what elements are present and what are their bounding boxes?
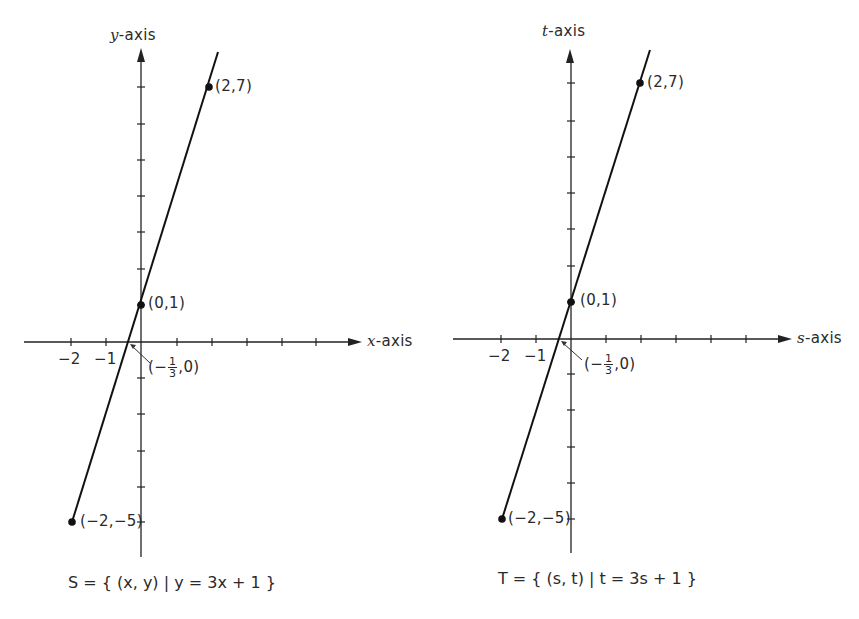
point-label-neg2-neg5: (−2,−5) (508, 509, 571, 527)
s-axis-arrow-icon (778, 335, 792, 343)
fraction-one-third: 13 (604, 353, 613, 376)
line-t-equals-3s-plus-1 (502, 50, 650, 519)
point-neg2-neg5 (498, 515, 506, 523)
x-tick-label-neg2: −2 (58, 350, 81, 368)
graph-t-plot (430, 0, 859, 619)
x-axis-label: x-axis (367, 332, 413, 350)
point-0-1 (567, 298, 575, 306)
s-tick-label-neg2: −2 (488, 347, 511, 365)
point-2-7 (205, 83, 213, 91)
point-label-0-1: (0,1) (580, 291, 617, 309)
t-axis-arrow-icon (566, 49, 574, 63)
point-label-2-7: (2,7) (647, 73, 684, 91)
root-pointer-line (563, 343, 582, 360)
s-axis-label: s-axis (797, 329, 842, 347)
graph-panel-t: t-axis s-axis −2 −1 (2,7) (0,1) (−13,0) … (430, 0, 859, 619)
x-tick-label-neg1: −1 (94, 350, 117, 368)
set-definition-t: T = { (s, t) | t = 3s + 1 } (498, 569, 697, 588)
t-axis-label: t-axis (542, 22, 585, 40)
point-2-7 (636, 79, 644, 87)
point-label-neg2-neg5: (−2,−5) (80, 512, 143, 530)
graph-panel-s: y-axis x-axis −2 −1 (2,7) (0,1) (−13,0) … (0, 0, 430, 619)
set-definition-s: S = { (x, y) | y = 3x + 1 } (68, 573, 276, 592)
point-label-root: (−13,0) (584, 353, 635, 376)
y-axis-arrow-icon (137, 48, 145, 62)
x-axis-arrow-icon (348, 338, 362, 346)
point-label-2-7: (2,7) (215, 77, 252, 95)
fraction-one-third: 13 (168, 356, 177, 379)
point-label-root: (−13,0) (148, 356, 199, 379)
s-tick-label-neg1: −1 (524, 347, 547, 365)
point-neg2-neg5 (68, 518, 76, 526)
point-0-1 (137, 301, 145, 309)
y-axis-label: y-axis (110, 26, 156, 44)
point-label-0-1: (0,1) (148, 294, 185, 312)
